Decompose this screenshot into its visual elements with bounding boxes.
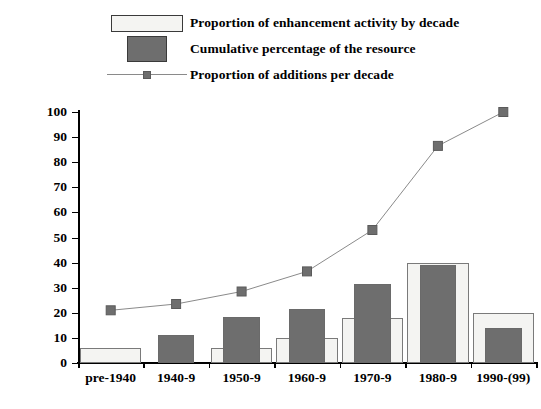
- x-axis-tick-label: 1970-9: [340, 371, 405, 385]
- y-axis-tick-label: 70: [33, 180, 67, 194]
- line-marker-1970-9: [368, 226, 377, 235]
- line-marker-pre-1940: [106, 306, 115, 315]
- y-axis-tick-label: 90: [33, 130, 67, 144]
- legend-item-cumulative-percentage: Cumulative percentage of the resource: [104, 36, 534, 62]
- legend-item-additions-per-decade: Proportion of additions per decade: [104, 62, 534, 88]
- line-marker-1990-(99): [499, 108, 508, 117]
- x-axis-tick-label: 1990-(99): [471, 371, 536, 385]
- x-axis-tick-label: 1960-9: [274, 371, 339, 385]
- plot-area: [78, 112, 536, 363]
- y-axis-tick-label: 100: [33, 105, 67, 119]
- line-marker-1960-9: [303, 267, 312, 276]
- x-axis-tick-label: pre-1940: [78, 371, 143, 385]
- legend-item-label: Cumulative percentage of the resource: [190, 42, 416, 56]
- y-axis-tick-label: 10: [33, 331, 67, 345]
- filled-rect-swatch-icon: [104, 36, 190, 62]
- x-axis-tick: [536, 362, 538, 368]
- y-axis-tick-label: 40: [33, 256, 67, 270]
- y-axis-tick-label: 60: [33, 205, 67, 219]
- line-marker-1950-9: [237, 287, 246, 296]
- y-axis-tick-label: 0: [33, 356, 67, 370]
- chart-legend: Proportion of enhancement activity by de…: [104, 10, 534, 88]
- y-axis-tick-label: 80: [33, 155, 67, 169]
- x-axis-tick-label: 1940-9: [143, 371, 208, 385]
- x-axis-tick-label: 1950-9: [209, 371, 274, 385]
- x-axis-tick-label: 1980-9: [405, 371, 470, 385]
- line-marker-1940-9: [172, 300, 181, 309]
- legend-item-label: Proportion of additions per decade: [190, 68, 394, 82]
- legend-item-label: Proportion of enhancement activity by de…: [190, 16, 459, 30]
- line-series-layer: [78, 112, 536, 363]
- line-marker-swatch-icon: [104, 68, 190, 82]
- y-axis-tick-label: 50: [33, 231, 67, 245]
- legend-item-enhancement-activity: Proportion of enhancement activity by de…: [104, 10, 534, 36]
- y-axis-tick-label: 30: [33, 281, 67, 295]
- line-path-additions-per-decade: [111, 112, 504, 310]
- line-marker-1980-9: [433, 141, 442, 150]
- y-axis-tick-label: 20: [33, 306, 67, 320]
- chart-root: Proportion of enhancement activity by de…: [0, 0, 541, 409]
- open-rect-swatch-icon: [104, 15, 190, 32]
